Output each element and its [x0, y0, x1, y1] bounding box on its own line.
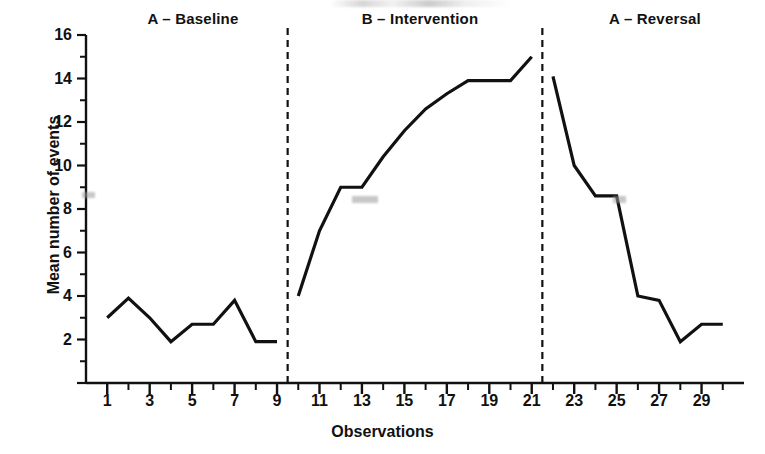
axes — [77, 35, 744, 394]
x-tick-label-11: 11 — [299, 392, 339, 410]
plot-area — [0, 0, 765, 454]
x-tick-label-25: 25 — [597, 392, 637, 410]
x-axis-title: Observations — [0, 423, 765, 441]
x-tick-label-21: 21 — [512, 392, 552, 410]
x-tick-label-15: 15 — [384, 392, 424, 410]
data-series-lines — [107, 57, 723, 342]
x-tick-label-23: 23 — [554, 392, 594, 410]
x-tick-label-13: 13 — [342, 392, 382, 410]
x-tick-label-5: 5 — [172, 392, 212, 410]
x-tick-label-3: 3 — [130, 392, 170, 410]
series-line-1 — [107, 298, 277, 342]
series-line-3 — [553, 76, 723, 341]
x-tick-label-9: 9 — [257, 392, 297, 410]
series-line-2 — [298, 57, 531, 296]
x-tick-label-17: 17 — [427, 392, 467, 410]
x-tick-label-1: 1 — [87, 392, 127, 410]
x-tick-label-7: 7 — [215, 392, 255, 410]
aba-reversal-design-chart: A – Baseline B – Intervention A – Revers… — [0, 0, 765, 454]
x-tick-label-19: 19 — [469, 392, 509, 410]
x-tick-label-29: 29 — [682, 392, 722, 410]
x-tick-label-27: 27 — [639, 392, 679, 410]
